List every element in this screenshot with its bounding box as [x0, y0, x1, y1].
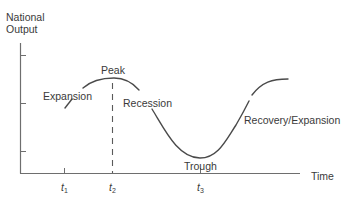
y-axis-label-line1: National	[6, 11, 45, 23]
y-axis-label: National Output	[6, 11, 45, 35]
cycle-curve-peak	[83, 78, 139, 90]
expansion-label: Expansion	[43, 90, 92, 102]
cycle-curve-recovery-end	[252, 79, 288, 95]
trough-label: Trough	[184, 160, 217, 172]
time-marker-t3: t3	[197, 181, 204, 194]
cycle-curve-recession-trough-recovery	[152, 101, 249, 158]
y-axis-label-line2: Output	[6, 23, 45, 35]
x-axis-label: Time	[311, 170, 334, 182]
recovery-expansion-label: Recovery/Expansion	[244, 114, 340, 126]
business-cycle-diagram	[0, 0, 352, 204]
peak-label: Peak	[101, 64, 125, 76]
recession-label: Recession	[123, 97, 172, 109]
t3-subscript: 3	[200, 187, 204, 194]
time-marker-t2: t2	[109, 181, 116, 194]
time-marker-t1: t1	[61, 181, 68, 194]
t1-subscript: 1	[64, 187, 68, 194]
t2-subscript: 2	[112, 187, 116, 194]
